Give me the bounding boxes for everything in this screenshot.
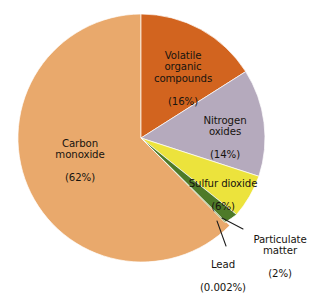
pie-chart-graphic	[0, 0, 317, 284]
pie-chart: Carbon monoxide (62%) Volatile organic c…	[0, 0, 317, 284]
